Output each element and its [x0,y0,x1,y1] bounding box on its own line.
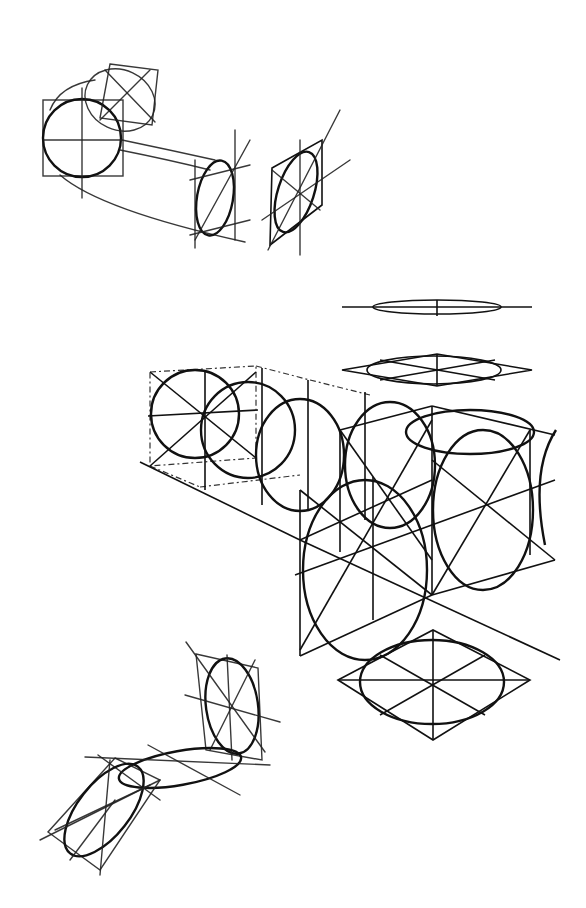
center-construction [140,300,560,740]
bottom-sketch [40,642,280,875]
top-sketch [43,58,350,255]
ellipse-perspective-drawing [0,0,586,908]
